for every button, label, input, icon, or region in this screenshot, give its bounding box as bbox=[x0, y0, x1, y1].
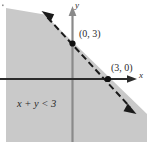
shaded-solution-region bbox=[6, 8, 147, 142]
x-intercept-point bbox=[105, 76, 111, 82]
x-axis-label: x bbox=[139, 71, 143, 80]
y-axis-label: y bbox=[75, 1, 79, 10]
inequality-graph-figure: y x (0, 3) (3, 0) x + y < 3 bbox=[0, 0, 147, 142]
y-intercept-point bbox=[69, 40, 75, 46]
inequality-label: x + y < 3 bbox=[17, 99, 56, 110]
x-intercept-label: (3, 0) bbox=[111, 63, 133, 73]
speck-artifact bbox=[2, 5, 4, 7]
y-intercept-label: (0, 3) bbox=[79, 29, 101, 39]
x-axis-arrowhead-icon bbox=[127, 75, 137, 82]
